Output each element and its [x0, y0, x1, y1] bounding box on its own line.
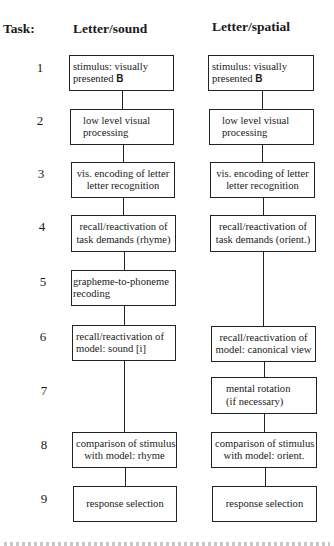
step-line-2: model: canonical view — [215, 344, 312, 357]
right-step-stimulus: stimulus: visually presented B — [208, 55, 314, 91]
right-step-low-level-visual: low level visual processing — [209, 109, 314, 145]
left-connector-3-4 — [123, 198, 124, 215]
task-number-6: 6 — [33, 329, 53, 345]
right-step-model-canonical-view: recall/reactivation of model: canonical … — [211, 326, 316, 362]
step-line-2: (if necessary) — [226, 396, 283, 409]
step-line-1: grapheme-to-phoneme — [73, 276, 172, 289]
step-line-2: processing — [83, 127, 128, 140]
left-connector-2-3 — [123, 145, 124, 162]
stimulus-letter: B — [116, 73, 123, 84]
task-number-4: 4 — [32, 219, 52, 235]
right-connector-7-8 — [264, 414, 265, 432]
left-step-visual-encoding: vis. encoding of letter letter recogniti… — [71, 162, 175, 198]
task-number-9: 9 — [34, 491, 54, 507]
step-line-2: model: sound [i] — [76, 343, 172, 356]
step-line-1: vis. encoding of letter — [75, 168, 171, 181]
step-line-2-text: presented — [212, 73, 255, 84]
right-connector-2-3 — [262, 145, 263, 162]
step-line-2: task demands (orient.) — [214, 234, 312, 247]
step-line-2-text: presented — [73, 73, 116, 84]
step-line-1: comparison of stimulus — [76, 438, 173, 451]
step-line-2: with model: rhyme — [76, 450, 173, 463]
right-connector-1-2 — [262, 90, 263, 109]
task-number-1: 1 — [30, 60, 50, 76]
stimulus-letter: B — [255, 73, 262, 84]
left-connector-6-8 — [124, 360, 125, 432]
task-header: Task: — [3, 21, 35, 37]
step-line-2: with model: orient. — [215, 450, 313, 463]
left-step-low-level-visual: low level visual processing — [70, 109, 174, 145]
left-step-stimulus: stimulus: visually presented B — [69, 55, 174, 91]
right-connector-8-9 — [265, 468, 266, 486]
step-line-2: letter recognition — [75, 180, 171, 193]
step-line-1: low level visual — [83, 115, 150, 128]
step-line-1: recall/reactivation of — [75, 221, 172, 234]
letter-spatial-header: Letter/spatial — [212, 19, 290, 35]
step-line-1: recall/reactivation of — [215, 332, 312, 345]
right-connector-4-6 — [263, 252, 264, 326]
left-connector-8-9 — [125, 468, 126, 486]
step-line-1: recall/reactivation of — [214, 221, 312, 234]
right-connector-6-7 — [264, 361, 265, 377]
right-step-comparison: comparison of stimulus with model: orien… — [211, 432, 317, 468]
step-line-1: stimulus: visually — [212, 61, 310, 74]
left-connector-1-2 — [122, 90, 123, 109]
step-line-1: response selection — [216, 498, 313, 511]
left-connector-4-5 — [124, 252, 125, 270]
task-number-5: 5 — [33, 274, 53, 290]
step-line-1: comparison of stimulus — [215, 438, 313, 451]
step-line-1: stimulus: visually — [73, 61, 170, 74]
step-line-2: presented B — [73, 73, 170, 86]
left-step-comparison: comparison of stimulus with model: rhyme — [72, 432, 177, 468]
task-number-3: 3 — [31, 166, 51, 182]
left-connector-5-6 — [124, 306, 125, 325]
step-line-2: task demands (rhyme) — [75, 234, 172, 247]
step-line-1: response selection — [77, 498, 173, 511]
step-line-2: processing — [222, 127, 267, 140]
step-line-1: low level visual — [222, 115, 289, 128]
step-line-2: presented B — [212, 73, 310, 86]
step-line-2: letter recognition — [214, 180, 311, 193]
right-step-visual-encoding: vis. encoding of letter letter recogniti… — [210, 162, 315, 198]
letter-sound-header: Letter/sound — [73, 21, 147, 37]
figure-caption-cutoff — [4, 542, 330, 546]
step-line-2: recoding — [73, 288, 172, 301]
left-step-model-sound: recall/reactivation of model: sound [i] — [72, 325, 176, 361]
right-step-mental-rotation: mental rotation (if necessary) — [211, 377, 317, 414]
right-step-response-selection: response selection — [212, 486, 317, 522]
task-number-8: 8 — [34, 437, 54, 453]
task-number-2: 2 — [30, 113, 50, 129]
task-number-7: 7 — [34, 383, 54, 399]
right-connector-3-4 — [263, 198, 264, 215]
step-line-1: mental rotation — [226, 383, 290, 396]
left-step-task-demands: recall/reactivation of task demands (rhy… — [71, 215, 176, 252]
right-step-task-demands: recall/reactivation of task demands (ori… — [210, 215, 316, 252]
step-line-1: vis. encoding of letter — [214, 168, 311, 181]
step-line-1: recall/reactivation of — [76, 331, 172, 344]
left-step-grapheme-phoneme: grapheme-to-phoneme recoding — [71, 270, 176, 306]
left-step-response-selection: response selection — [73, 486, 177, 522]
